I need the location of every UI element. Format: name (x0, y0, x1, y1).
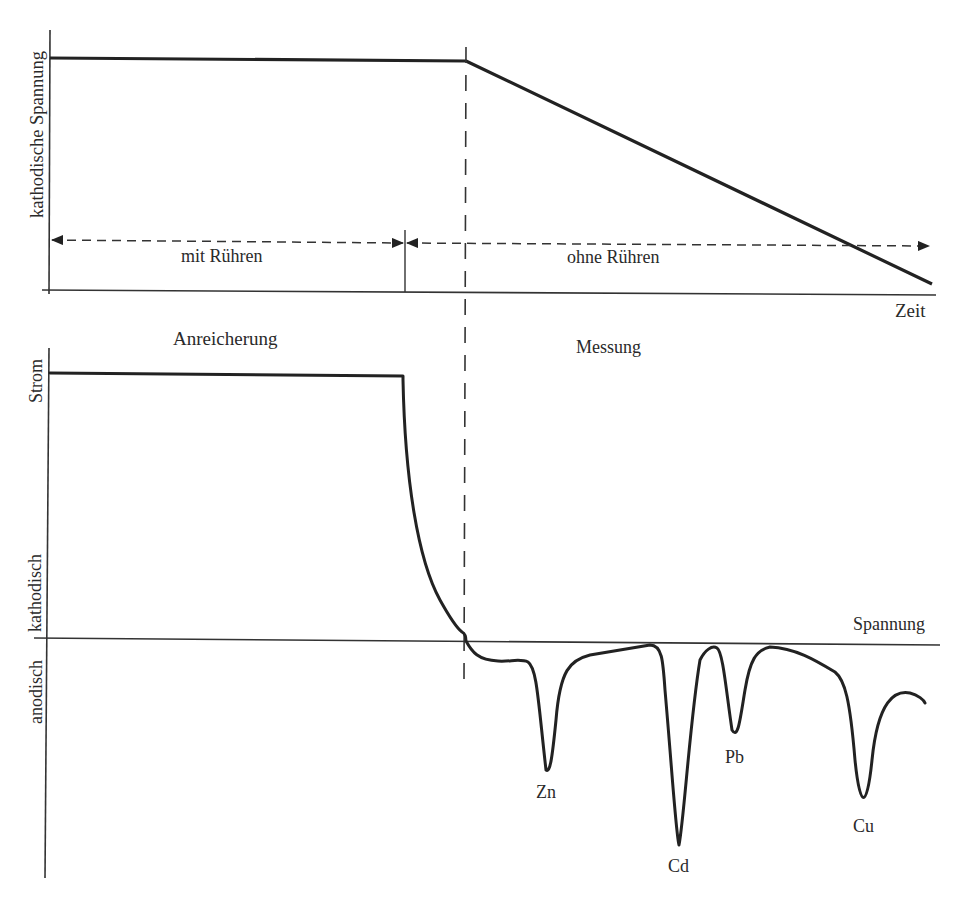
voltage-axis-label: Spannung (853, 615, 925, 633)
peak-label-cu: Cu (853, 817, 874, 835)
no-stirring-label: ohne Rühren (567, 248, 659, 266)
enrichment-phase-label: Anreicherung (173, 329, 277, 348)
stirring-arrow (52, 240, 403, 243)
current-axis-label: Strom (27, 359, 45, 403)
top-x-axis (42, 290, 936, 295)
anodic-label: anodisch (27, 660, 45, 724)
top-panel (42, 30, 936, 295)
peak-label-cd: Cd (668, 857, 689, 875)
top-y-axis-label: kathodische Spannung (28, 51, 47, 218)
current-curve (50, 373, 925, 845)
top-x-axis-label: Zeit (895, 301, 926, 320)
top-y-axis (49, 30, 50, 294)
cathodic-label: kathodisch (26, 554, 44, 632)
peak-label-zn: Zn (536, 783, 556, 801)
measurement-phase-label: Messung (576, 338, 641, 356)
stirring-label: mit Rühren (181, 247, 263, 265)
bottom-panel (34, 348, 940, 878)
phase-separator-line (464, 47, 466, 680)
bottom-x-axis (34, 638, 940, 645)
stripping-voltammetry-diagram (0, 0, 964, 904)
bottom-y-axis (45, 348, 49, 878)
peak-label-pb: Pb (725, 748, 744, 766)
